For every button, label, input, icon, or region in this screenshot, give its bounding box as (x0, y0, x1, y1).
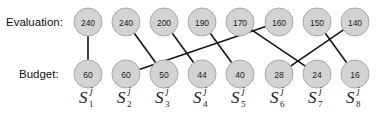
edge-eval-7-to-budget-8 (325, 33, 346, 62)
budget-node-value: 50 (159, 70, 169, 80)
budget-node-value: 28 (274, 70, 284, 80)
edge-eval-4-to-budget-5 (210, 33, 231, 62)
evaluation-node-value: 200 (157, 18, 171, 28)
edge-eval-2-to-budget-3 (134, 33, 155, 62)
budget-node-6: 28 (265, 60, 293, 88)
node-label-subscript: 6 (280, 99, 285, 109)
budget-node-3: 50 (150, 60, 178, 88)
evaluation-nodes-group: 240240200190170160150140 (74, 8, 369, 36)
budget-node-value: 40 (235, 70, 245, 80)
node-label-7: Sj7 (308, 85, 323, 109)
evaluation-node-value: 160 (272, 18, 286, 28)
budget-node-value: 60 (83, 70, 93, 80)
node-label-base: S (79, 88, 88, 107)
budget-node-4: 44 (188, 60, 216, 88)
matching-diagram: Evaluation: Budget: 24024020019017016015… (0, 0, 377, 117)
evaluation-node-8: 140 (341, 8, 369, 36)
node-label-base: S (155, 88, 164, 107)
node-label-subscript: 5 (241, 99, 246, 109)
node-label-base: S (117, 88, 126, 107)
evaluation-node-value: 240 (119, 18, 133, 28)
evaluation-node-7: 150 (303, 8, 331, 36)
budget-node-2: 60 (112, 60, 140, 88)
evaluation-node-value: 190 (195, 18, 209, 28)
node-label-8: Sj8 (346, 85, 361, 109)
node-label-subscript: 2 (127, 99, 132, 109)
budget-node-value: 60 (121, 70, 131, 80)
node-label-1: Sj1 (79, 85, 94, 109)
node-label-base: S (308, 88, 317, 107)
edge-eval-3-to-budget-4 (172, 33, 193, 62)
node-label-6: Sj6 (270, 85, 285, 109)
budget-node-7: 24 (303, 60, 331, 88)
budget-node-value: 16 (350, 70, 360, 80)
node-label-base: S (231, 88, 240, 107)
evaluation-node-value: 170 (233, 18, 247, 28)
node-label-4: Sj4 (193, 85, 208, 109)
node-label-5: Sj5 (231, 85, 246, 109)
budget-node-value: 24 (312, 70, 322, 80)
node-label-subscript: 1 (89, 99, 94, 109)
evaluation-node-value: 150 (310, 18, 324, 28)
evaluation-node-4: 190 (188, 8, 216, 36)
budget-node-1: 60 (74, 60, 102, 88)
budget-node-5: 40 (226, 60, 254, 88)
node-label-2: Sj2 (117, 85, 132, 109)
evaluation-node-5: 170 (226, 8, 254, 36)
budget-nodes-group: 6060504440282416 (74, 60, 369, 88)
node-label-3: Sj3 (155, 85, 170, 109)
node-label-subscript: 7 (318, 99, 323, 109)
budget-node-8: 16 (341, 60, 369, 88)
node-label-subscript: 4 (203, 99, 208, 109)
evaluation-node-3: 200 (150, 8, 178, 36)
budget-node-value: 44 (197, 70, 207, 80)
evaluation-node-value: 140 (348, 18, 362, 28)
node-labels-group: Sj1Sj2Sj3Sj4Sj5Sj6Sj7Sj8 (79, 85, 361, 109)
evaluation-node-2: 240 (112, 8, 140, 36)
evaluation-node-value: 240 (81, 18, 95, 28)
budget-row-label: Budget: (19, 68, 59, 80)
node-label-subscript: 8 (356, 99, 361, 109)
evaluation-row-label: Evaluation: (6, 16, 63, 28)
node-label-subscript: 3 (165, 99, 170, 109)
evaluation-node-6: 160 (265, 8, 293, 36)
node-label-base: S (346, 88, 355, 107)
node-label-base: S (193, 88, 202, 107)
evaluation-node-1: 240 (74, 8, 102, 36)
node-label-base: S (270, 88, 279, 107)
